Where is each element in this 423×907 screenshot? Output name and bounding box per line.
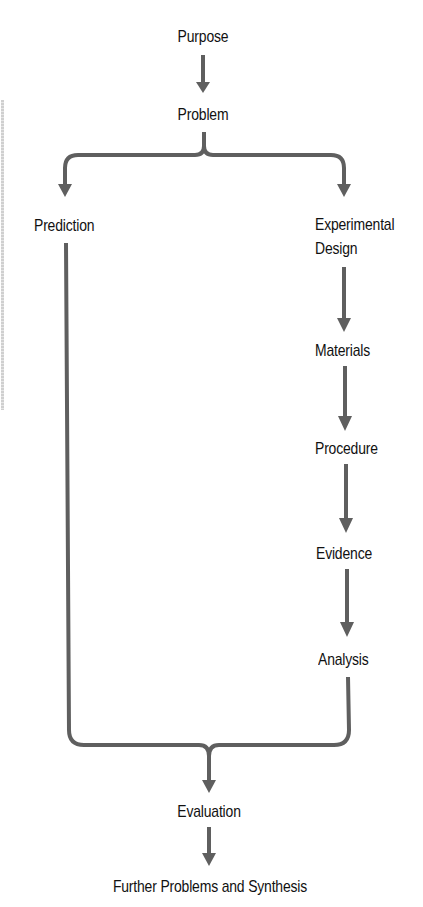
arrowhead-icon xyxy=(340,622,354,637)
node-problem: Problem xyxy=(162,105,244,125)
arrowhead-icon xyxy=(338,416,352,431)
arrowhead-icon xyxy=(196,82,210,93)
node-experimental-design-line1: Experimental xyxy=(315,215,394,235)
arrowhead-icon xyxy=(202,780,216,793)
node-materials: Materials xyxy=(315,341,370,361)
node-evaluation: Evaluation xyxy=(160,802,258,822)
arrowhead-icon xyxy=(337,184,351,197)
brace-split-connector xyxy=(65,132,344,186)
node-procedure: Procedure xyxy=(315,439,378,459)
node-experimental-design-line2: Design xyxy=(315,239,357,259)
arrowhead-icon xyxy=(339,518,353,533)
arrowhead-icon xyxy=(58,184,72,197)
node-prediction: Prediction xyxy=(34,216,94,236)
arrowhead-icon xyxy=(337,318,351,332)
node-further-problems-and-synthesis: Further Problems and Synthesis xyxy=(87,877,333,897)
node-evidence: Evidence xyxy=(316,544,372,564)
scientific-method-flowchart: Purpose Problem Prediction Experimental … xyxy=(0,0,423,907)
arrowhead-icon xyxy=(202,853,216,866)
node-analysis: Analysis xyxy=(318,650,369,670)
node-purpose: Purpose xyxy=(162,27,244,47)
brace-merge-connector xyxy=(66,243,349,782)
